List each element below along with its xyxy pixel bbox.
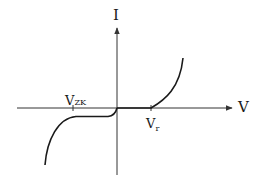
vzk-label: VZK [65, 92, 86, 108]
vzk-label-main: V [65, 93, 74, 108]
vr-label-sub: r [155, 124, 159, 133]
vr-label: Vr [146, 115, 159, 131]
reverse-characteristic-curve [45, 108, 117, 165]
forward-characteristic-curve [117, 58, 183, 108]
zener-iv-diagram: I V VZK Vr [0, 0, 259, 186]
vr-label-main: V [146, 116, 155, 131]
v-axis-label: V [238, 100, 249, 115]
diagram-canvas [0, 0, 259, 186]
vzk-label-sub: ZK [74, 98, 86, 107]
i-axis-label: I [113, 8, 119, 23]
